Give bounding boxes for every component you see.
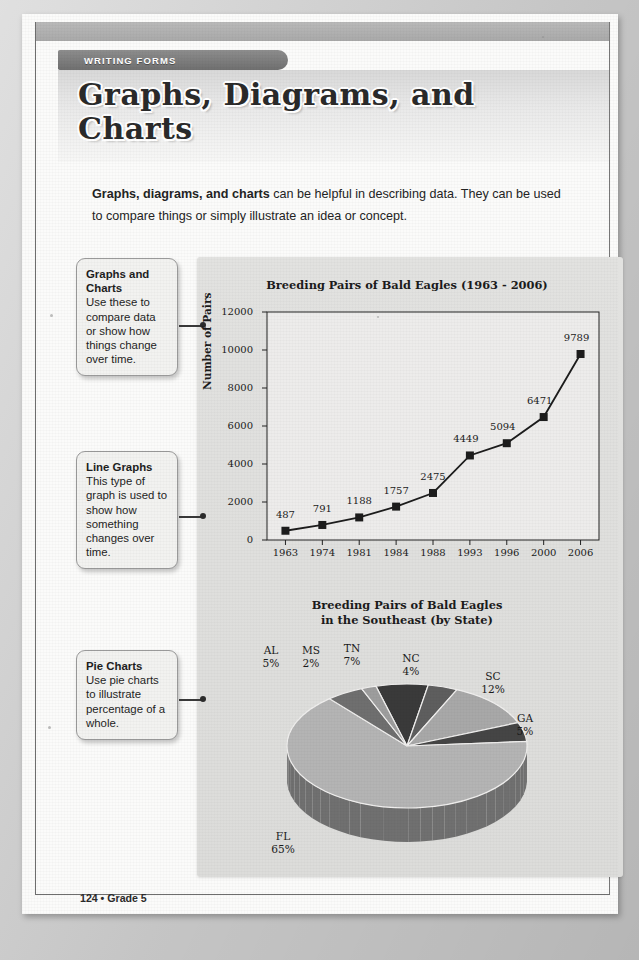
line-chart: Breeding Pairs of Bald Eagles (1963 - 20… <box>207 272 607 572</box>
callout-0-body: Use these to compare data or show how th… <box>86 296 157 365</box>
pie-slice-label-al: AL5% <box>253 644 289 670</box>
line-chart-svg <box>207 272 607 572</box>
pie-slice-percent: 7% <box>344 655 361 667</box>
scan-speck <box>48 726 51 729</box>
pie-slice-label-ms: MS2% <box>293 644 329 670</box>
pie-slice-percent: 5% <box>263 657 280 669</box>
callout-line-graphs: Line Graphs This type of graph is used t… <box>76 451 178 569</box>
pie-slice-state: FL <box>276 830 290 842</box>
scan-speck <box>377 316 379 318</box>
pie-slice-percent: 5% <box>517 725 534 737</box>
pie-slice-label-sc: SC12% <box>475 670 511 696</box>
callout-graphs-and-charts: Graphs and Charts Use these to compare d… <box>76 258 178 376</box>
line-chart-y-tick: 8000 <box>207 382 253 393</box>
line-chart-data-label: 2475 <box>411 471 455 482</box>
writing-forms-label: WRITING FORMS <box>84 55 176 66</box>
intro-paragraph: Graphs, diagrams, and charts can be help… <box>92 183 562 227</box>
pie-slice-state: AL <box>264 644 279 656</box>
line-chart-data-label: 9789 <box>555 332 599 343</box>
pie-slice-state: GA <box>517 712 533 724</box>
callout-1-body: This type of graph is used to show how s… <box>86 475 167 558</box>
pie-slice-percent: 65% <box>271 843 295 855</box>
line-chart-data-label: 5094 <box>481 421 525 432</box>
pie-slice-percent: 4% <box>403 665 420 677</box>
line-chart-title: Breeding Pairs of Bald Eagles (1963 - 20… <box>207 278 607 292</box>
pie-slice-state: MS <box>302 644 320 656</box>
page-title-line-1: Graphs, Diagrams, and <box>78 78 578 112</box>
pie-slice-label-fl: FL65% <box>265 830 301 856</box>
pie-slice-state: TN <box>344 642 360 654</box>
line-chart-x-tick: 2006 <box>558 547 604 558</box>
callout-2-pointer <box>179 699 204 701</box>
callout-1-heading: Line Graphs <box>86 460 168 474</box>
pie-slice-state: SC <box>485 670 500 682</box>
line-chart-y-tick: 6000 <box>207 420 253 431</box>
line-chart-y-tick: 10000 <box>207 344 253 355</box>
pie-slice-state: NC <box>402 652 419 664</box>
pie-chart: Breeding Pairs of Bald Eagles in the Sou… <box>207 594 607 874</box>
pie-chart-title-line-1: Breeding Pairs of Bald Eagles <box>207 598 607 613</box>
writing-forms-banner: WRITING FORMS <box>58 50 288 70</box>
line-chart-y-tick: 0 <box>207 534 253 545</box>
line-chart-data-label: 1757 <box>374 485 418 496</box>
callout-1-pointer <box>179 516 204 518</box>
page-title: Graphs, Diagrams, and Charts <box>78 78 578 146</box>
line-chart-y-tick: 2000 <box>207 496 253 507</box>
scan-speck <box>542 36 544 38</box>
pie-slice-percent: 12% <box>481 683 505 695</box>
line-chart-data-label: 6471 <box>518 395 562 406</box>
pie-slice-label-tn: TN7% <box>334 642 370 668</box>
line-chart-data-label: 1188 <box>337 495 381 506</box>
callout-pie-charts: Pie Charts Use pie charts to illustrate … <box>76 650 178 740</box>
line-chart-data-label: 4449 <box>444 433 488 444</box>
callout-2-body: Use pie charts to illustrate percentage … <box>86 674 165 729</box>
callout-2-heading: Pie Charts <box>86 659 168 673</box>
line-chart-y-tick: 12000 <box>207 306 253 317</box>
callout-0-heading: Graphs and Charts <box>86 267 168 295</box>
intro-bold-lead: Graphs, diagrams, and charts <box>92 187 270 201</box>
pie-slice-label-ga: GA5% <box>507 712 543 738</box>
line-chart-y-tick: 4000 <box>207 458 253 469</box>
page-title-line-2: Charts <box>78 112 578 146</box>
page-footer: 124 • Grade 5 <box>80 892 147 904</box>
pie-chart-title-line-2: in the Southeast (by State) <box>207 613 607 628</box>
pie-chart-title: Breeding Pairs of Bald Eagles in the Sou… <box>207 598 607 628</box>
document-page: WRITING FORMS Graphs, Diagrams, and Char… <box>22 14 618 914</box>
pie-slice-percent: 2% <box>303 657 320 669</box>
scan-speck <box>50 314 53 317</box>
pie-slice-label-nc: NC4% <box>393 652 429 678</box>
